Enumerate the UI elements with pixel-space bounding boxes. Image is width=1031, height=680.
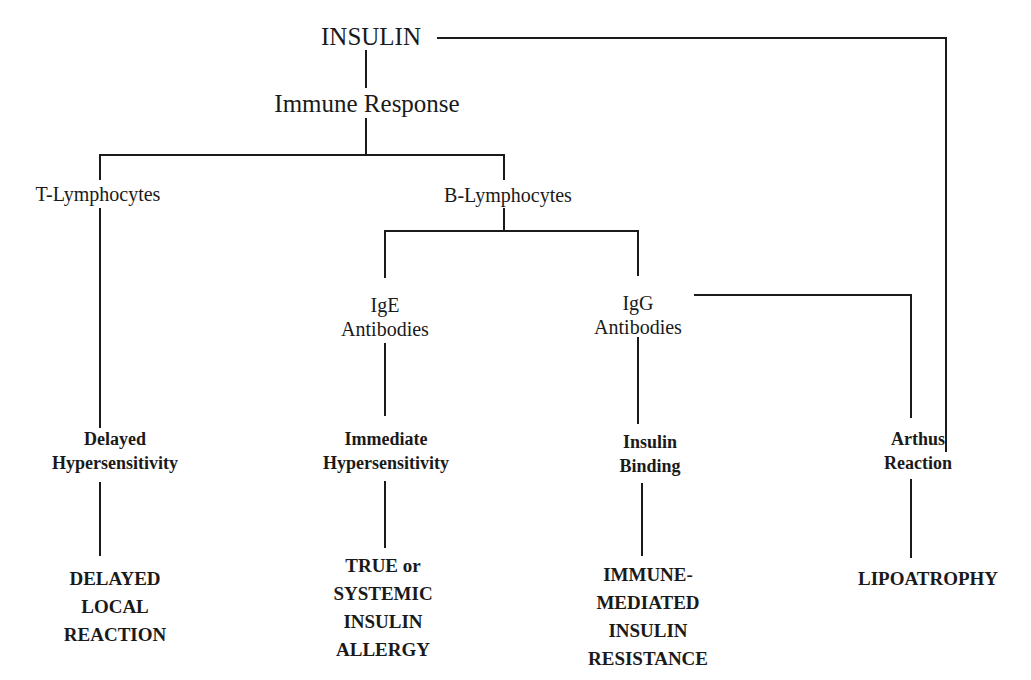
outcome-immune-mediated-insulin-resistance: IMMUNE- MEDIATED INSULIN RESISTANCE [588,561,708,673]
node-t-lymphocytes: T-Lymphocytes [36,182,161,206]
outcome-delayed-local-reaction: DELAYED LOCAL REACTION [64,565,166,649]
node-arthus-reaction: Arthus Reaction [884,427,952,475]
node-immediate-hypersensitivity: Immediate Hypersensitivity [323,427,449,475]
outcome-lipoatrophy: LIPOATROPHY [858,565,998,593]
node-delayed-hypersensitivity: Delayed Hypersensitivity [52,427,178,475]
node-immune-response: Immune Response [274,90,459,117]
outcome-systemic-insulin-allergy: TRUE or SYSTEMIC INSULIN ALLERGY [333,552,432,664]
node-b-lymphocytes: B-Lymphocytes [444,183,572,207]
node-insulin-binding: Insulin Binding [619,430,680,478]
node-ige-antibodies: IgE Antibodies [341,293,429,341]
node-igg-antibodies: IgG Antibodies [594,291,682,339]
node-insulin: INSULIN [321,23,421,50]
